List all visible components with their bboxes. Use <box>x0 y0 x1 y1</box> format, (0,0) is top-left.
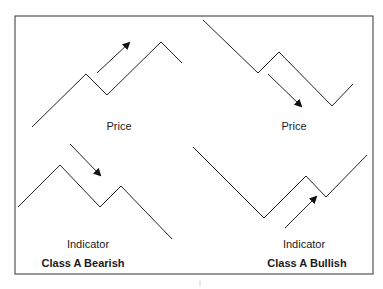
bullish-indicator-label: Indicator <box>283 238 325 250</box>
bearish-title: Class A Bearish <box>42 257 125 269</box>
bullish-price-label: Price <box>281 120 306 132</box>
class-a-bullish-indicator-line <box>193 147 367 218</box>
class-a-bearish-price-line <box>32 42 182 127</box>
line-group <box>18 20 367 239</box>
class-a-bearish-indicator-line <box>18 165 172 239</box>
bearish-indicator-label: Indicator <box>67 238 109 250</box>
bullish-title: Class A Bullish <box>267 257 346 269</box>
bearish-price-label: Price <box>106 120 131 132</box>
class-a-bullish-price-arrow-down-icon <box>268 74 301 106</box>
class-a-bearish-price-arrow-up-icon <box>97 43 129 73</box>
diagram-frame <box>15 16 373 274</box>
divergence-diagram <box>0 0 383 289</box>
class-a-bearish-indicator-arrow-down-icon <box>70 144 100 175</box>
class-a-bullish-price-line <box>203 20 353 106</box>
class-a-bullish-indicator-arrow-up-icon <box>285 197 316 228</box>
